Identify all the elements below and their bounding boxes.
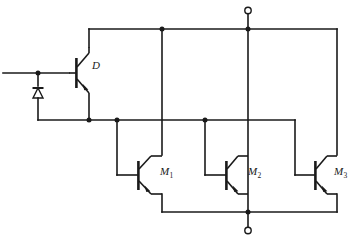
diode-triangle [33, 88, 43, 98]
base-bus-rail-group [38, 118, 295, 123]
bottom-return-terminal [245, 227, 251, 233]
m2-emitter-lead [227, 181, 238, 194]
input-lead-group [3, 71, 69, 76]
m3-emitter-arrow [322, 186, 328, 192]
m1-base-routing [117, 120, 138, 175]
m1-label: M1 [160, 166, 173, 177]
top-rail-junction-dot-terminal [246, 27, 251, 32]
protection-diode-group [33, 73, 44, 120]
circuit-schematic-svg [0, 0, 354, 240]
top-rail-junction-dot-m1 [160, 27, 165, 32]
bottom-rail-group [162, 210, 337, 215]
top-supply-terminal-group [245, 7, 251, 29]
m2-collector-lead [227, 156, 238, 169]
m3-base-routing [295, 120, 315, 175]
output-transistor-m1 [138, 156, 162, 212]
driver-transistor-d [69, 47, 89, 120]
m2-label: M2 [248, 166, 261, 177]
m3-emitter-lead [316, 181, 327, 194]
driver-transistor-label: D [92, 60, 100, 71]
m1-collector-lead [139, 156, 151, 169]
m1-emitter-arrow [145, 186, 151, 192]
driver-emitter-arrow [83, 84, 89, 91]
driver-collector-lead [77, 53, 89, 67]
m3-collector-lead [316, 156, 327, 169]
circuit-diagram: D M1 M2 M3 [0, 0, 354, 240]
bottom-return-terminal-group [245, 212, 251, 234]
m1-emitter-lead [139, 181, 151, 194]
m2-emitter-arrow [233, 186, 239, 192]
driver-emitter-lead [77, 79, 89, 93]
m3-label: M3 [334, 166, 347, 177]
output-transistor-m2 [226, 156, 248, 194]
top-supply-terminal [245, 7, 251, 13]
driver-emitter-junction-dot [87, 118, 92, 123]
m2-base-routing [205, 120, 226, 175]
